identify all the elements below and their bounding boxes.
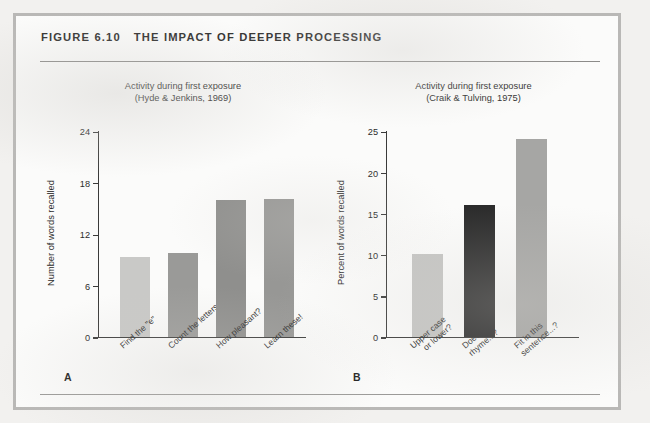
plot-b-tick-label-10: 10 [368,251,378,261]
plot-a-tick-label-12: 12 [80,230,90,240]
chart-a-subtitle: Activity during first exposure (Hyde & J… [38,80,328,104]
plot-a-tick-label-24: 24 [80,127,90,137]
chart-b-subtitle-line1: Activity during first exposure [415,81,531,91]
plot-a-tick-6 [93,286,98,287]
plot-b-tick-25 [381,132,386,133]
chart-panel-a: Activity during first exposure (Hyde & J… [38,71,328,391]
figure-number: FIGURE 6.10 [41,31,121,43]
plot-b-tick-5 [381,296,386,297]
bar-3 [516,139,547,336]
chart-a-panel-letter: A [64,371,72,383]
chart-a-y-axis [98,131,99,338]
plot-b-tick-label-0: 0 [373,333,378,343]
chart-a-subtitle-line2: (Hyde & Jenkins, 1969) [38,92,328,104]
chart-a-subtitle-line1: Activity during first exposure [125,81,241,91]
plot-b-tick-label-5: 5 [373,292,378,302]
plot-b-tick-0 [381,337,386,338]
chart-panel-b: Activity during first exposure (Craik & … [331,71,616,391]
plot-a-tick-label-6: 6 [85,282,90,292]
figure-heading: FIGURE 6.10THE IMPACT OF DEEPER PROCESSI… [41,31,382,43]
plot-a-tick-18 [93,183,98,184]
bar-4 [264,199,294,337]
plot-b-tick-label-15: 15 [368,210,378,220]
chart-b-subtitle: Activity during first exposure (Craik & … [331,80,616,104]
plot-a-tick-0 [93,337,98,338]
figure-title: THE IMPACT OF DEEPER PROCESSING [134,31,383,43]
chart-a-y-axis-label: Number of words recalled [46,143,56,323]
plot-b-tick-label-20: 20 [368,169,378,179]
plot-a-tick-12 [93,235,98,236]
header-divider [40,61,600,62]
plot-b-tick-10 [381,255,386,256]
plot-b-tick-20 [381,173,386,174]
plot-a-tick-24 [93,132,98,133]
chart-b-plot-area: 0510152025Upper caseor lower?Does itrhym… [386,131,571,338]
footer-divider [40,394,600,395]
chart-b-y-axis-label: Percent of words recalled [336,143,346,323]
figure-inner: FIGURE 6.10THE IMPACT OF DEEPER PROCESSI… [16,16,618,407]
plot-b-tick-label-25: 25 [368,127,378,137]
bar-2 [464,205,495,337]
chart-b-panel-letter: B [353,371,361,383]
chart-b-y-axis [386,131,387,338]
plot-a-tick-label-18: 18 [80,179,90,189]
bar-3 [216,200,246,337]
plot-a-tick-label-0: 0 [85,333,90,343]
figure-frame: FIGURE 6.10THE IMPACT OF DEEPER PROCESSI… [13,13,621,410]
chart-a-plot-area: 06121824Find the "e"Count the lettersHow… [98,131,298,338]
plot-b-tick-15 [381,214,386,215]
chart-b-subtitle-line2: (Craik & Tulving, 1975) [331,92,616,104]
